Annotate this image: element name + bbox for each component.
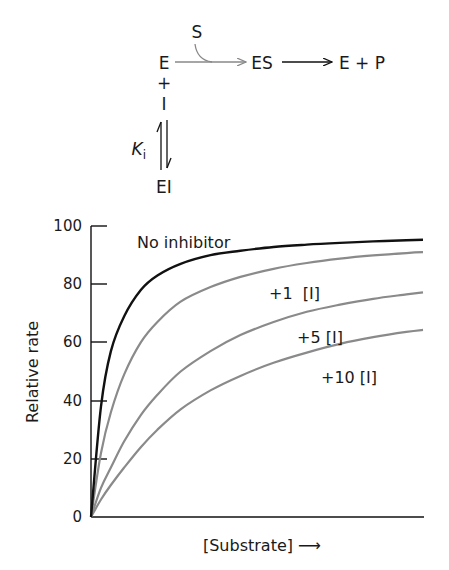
substrate-label: S bbox=[192, 22, 203, 42]
y-tick-labels: 0 20 40 60 80 100 bbox=[53, 217, 82, 526]
y-axis-label: Relative rate bbox=[23, 321, 42, 423]
enzyme-label: E bbox=[159, 53, 170, 73]
tick-label-0: 0 bbox=[72, 508, 82, 526]
rate-chart: 0 20 40 60 80 100 Relative rate [Substra… bbox=[23, 217, 424, 555]
reaction-scheme: S E ES E + P + I Ki EI bbox=[132, 22, 386, 197]
tick-label-100: 100 bbox=[53, 217, 82, 235]
plus-sign: + bbox=[157, 73, 171, 93]
ki-label: Ki bbox=[132, 139, 147, 162]
label-plus1: +1 [I] bbox=[269, 284, 320, 303]
competitive-inhibition-figure: S E ES E + P + I Ki EI 0 20 bbox=[0, 0, 449, 570]
ei-complex-label: EI bbox=[156, 177, 172, 197]
tick-label-20: 20 bbox=[63, 450, 82, 468]
label-no-inhibitor: No inhibitor bbox=[137, 233, 231, 252]
products-label: E + P bbox=[339, 53, 385, 73]
label-plus5: +5 [I] bbox=[297, 328, 343, 347]
es-complex-label: ES bbox=[251, 53, 273, 73]
label-plus10: +10 [I] bbox=[321, 368, 377, 387]
equilibrium-arrows-icon bbox=[157, 120, 171, 170]
inhibitor-label: I bbox=[161, 94, 166, 114]
curve-plus10-inhibitor bbox=[91, 330, 423, 517]
tick-label-60: 60 bbox=[63, 333, 82, 351]
tick-label-80: 80 bbox=[63, 275, 82, 293]
tick-label-40: 40 bbox=[63, 392, 82, 410]
substrate-binding-arrow-icon bbox=[195, 44, 212, 62]
curve-plus5-inhibitor bbox=[91, 292, 423, 517]
x-axis-label: [Substrate] ⟶ bbox=[203, 536, 321, 555]
